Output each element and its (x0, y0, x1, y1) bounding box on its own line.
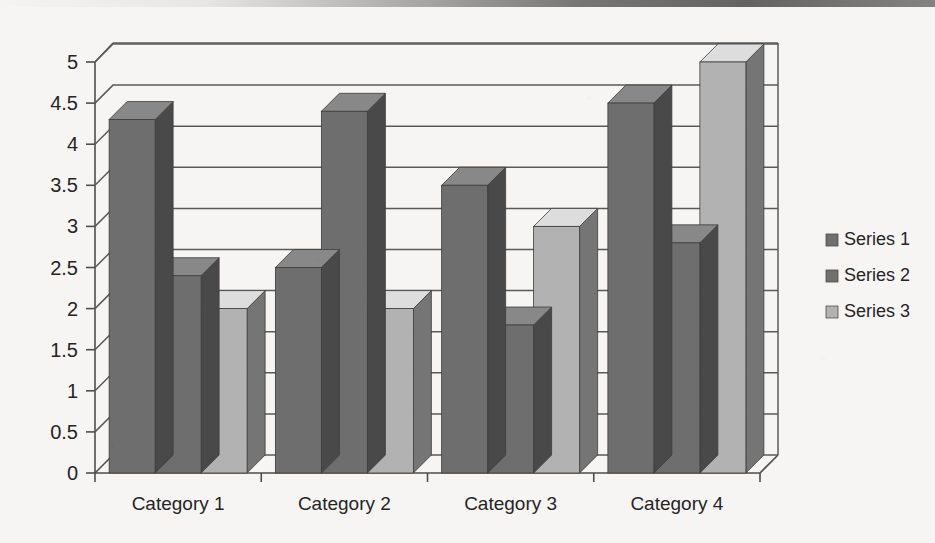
bar-side-face (413, 291, 431, 473)
bar-3-series-1 (442, 167, 506, 473)
bar-4-series-1 (608, 85, 672, 473)
y-axis-ticks-group: 00.511.522.533.544.55 (50, 51, 95, 484)
bar-side-face (700, 225, 718, 473)
y-tick-label: 0 (67, 462, 78, 484)
bar-front-face (275, 268, 321, 474)
x-axis-ticks-group: Category 1Category 2Category 3Category 4 (95, 473, 760, 514)
bar-side-face (367, 93, 385, 473)
y-tick-label: 5 (67, 51, 78, 73)
legend-label: Series 2 (844, 265, 910, 285)
bar-side-face (488, 167, 506, 473)
y-tick-label: 0.5 (50, 421, 78, 443)
chart-page: 00.511.522.533.544.55 Category 1Category… (0, 0, 935, 543)
legend-item-2[interactable]: Series 2 (826, 265, 910, 285)
legend-swatch-icon (826, 306, 838, 318)
legend-swatch-icon (826, 234, 838, 246)
legend-label: Series 1 (844, 229, 910, 249)
bar-2-series-1 (275, 250, 339, 474)
bar-1-series-1 (109, 102, 173, 473)
bar-side-face (654, 85, 672, 473)
bar-side-face (321, 250, 339, 474)
x-tick-label: Category 2 (298, 493, 391, 514)
column-chart-3d: 00.511.522.533.544.55 Category 1Category… (0, 0, 935, 543)
x-tick-label: Category 3 (464, 493, 557, 514)
y-tick-label: 4 (67, 133, 78, 155)
x-tick-label: Category 4 (630, 493, 723, 514)
y-tick-label: 2.5 (50, 257, 78, 279)
gridline (95, 167, 778, 185)
legend-item-1[interactable]: Series 1 (826, 229, 910, 249)
legend-label: Series 3 (844, 301, 910, 321)
bar-side-face (746, 44, 764, 473)
bar-front-face (608, 103, 654, 473)
legend-item-3[interactable]: Series 3 (826, 301, 910, 321)
bar-side-face (201, 258, 219, 473)
gridline (95, 126, 778, 144)
bars-group (109, 44, 764, 473)
bar-front-face (442, 185, 488, 473)
bar-side-face (155, 102, 173, 473)
x-tick-label: Category 1 (132, 493, 225, 514)
bar-side-face (247, 291, 265, 473)
y-tick-label: 4.5 (50, 92, 78, 114)
gridline (95, 44, 778, 62)
bar-front-face (109, 120, 155, 473)
bar-side-face (580, 208, 598, 473)
gridline (95, 85, 778, 103)
legend-swatch-icon (826, 270, 838, 282)
y-tick-label: 3 (67, 215, 78, 237)
y-tick-label: 1.5 (50, 339, 78, 361)
y-tick-label: 2 (67, 298, 78, 320)
y-tick-label: 1 (67, 380, 78, 402)
gridline (95, 208, 778, 226)
bar-side-face (534, 307, 552, 473)
chart-legend: Series 1Series 2Series 3 (826, 229, 910, 321)
y-tick-label: 3.5 (50, 174, 78, 196)
